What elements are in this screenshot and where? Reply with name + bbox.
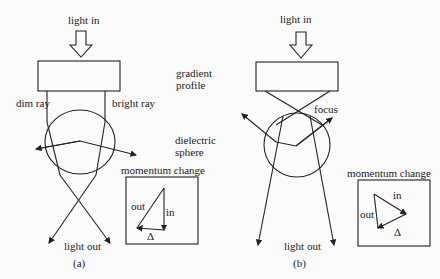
diagram-canvas [0, 0, 440, 279]
output-ray-1 [60, 175, 110, 243]
gradient-profile-box [256, 62, 338, 91]
vector-out-label: out [360, 208, 374, 220]
caption-b: (b) [293, 257, 306, 269]
focus-label: focus [314, 103, 338, 115]
reflected-rays [36, 141, 136, 155]
dielectric-sphere-label: dielectric [175, 134, 216, 146]
momentum-change-title: momentum change [121, 164, 205, 176]
input-arrow-icon [290, 32, 312, 58]
output-ray-2 [49, 175, 96, 243]
light-in-label: light in [68, 14, 99, 26]
dielectric-sphere [45, 110, 115, 174]
input-arrow-icon [70, 31, 92, 57]
light-out-label: light out [64, 240, 101, 252]
light-in-label: light in [280, 13, 311, 25]
gradient-profile-box [38, 61, 120, 91]
vector-delta-label: Δ [394, 226, 401, 238]
gradient-profile-label: gradient [176, 67, 212, 79]
bright-ray-label: bright ray [112, 97, 155, 109]
vector-in-label: in [393, 189, 402, 201]
dim-ray-label: dim ray [16, 97, 50, 109]
vector-delta-label: Δ [147, 230, 154, 242]
gradient-profile-label-2: profile [176, 79, 205, 91]
light-out-label: light out [284, 240, 321, 252]
vector-in-label: in [166, 206, 175, 218]
dielectric-sphere-label-2: sphere [175, 146, 204, 158]
momentum-change-title: momentum change [347, 167, 431, 179]
vector-out-label: out [131, 200, 145, 212]
reflected-ray-left [242, 114, 276, 142]
caption-a: (a) [73, 257, 85, 269]
